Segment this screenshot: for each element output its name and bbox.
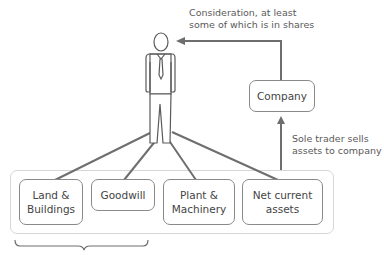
- person-icon: [146, 33, 175, 143]
- asset-box-land-buildings: Land & Buildings: [19, 179, 83, 225]
- asset-label-line-1: Land &: [32, 188, 69, 202]
- sale-note-line-1: Sole trader sells: [292, 133, 382, 145]
- asset-label-line-2: Buildings: [27, 202, 75, 216]
- consideration-line-2: some of which is in shares: [189, 19, 314, 31]
- asset-box-plant-machinery: Plant & Machinery: [163, 179, 235, 225]
- sale-arrow: [277, 116, 285, 170]
- asset-label-line-1: Plant &: [180, 188, 218, 202]
- consideration-line-1: Consideration, at least: [189, 7, 314, 19]
- asset-label-line-2: assets: [266, 202, 299, 216]
- asset-label-line-1: Net current: [253, 188, 313, 202]
- asset-label-line-1: Goodwill: [101, 188, 146, 202]
- asset-label-line-2: Machinery: [172, 202, 226, 216]
- sale-note-label: Sole trader sells assets to company: [292, 133, 382, 157]
- company-label: Company: [257, 89, 307, 103]
- consideration-label: Consideration, at least some of which is…: [189, 7, 314, 31]
- consideration-arrow: [176, 37, 281, 80]
- sale-note-line-2: assets to company: [292, 145, 382, 157]
- company-box: Company: [249, 80, 315, 112]
- asset-box-goodwill: Goodwill: [91, 179, 155, 211]
- grouping-brace: [15, 240, 148, 250]
- asset-box-net-current-assets: Net current assets: [242, 179, 323, 225]
